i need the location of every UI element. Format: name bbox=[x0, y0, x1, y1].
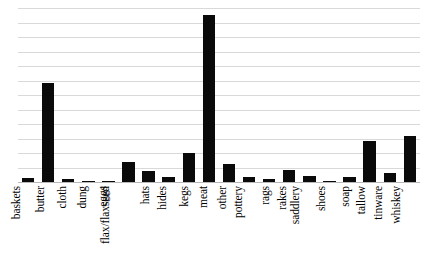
bar-slot bbox=[58, 8, 78, 182]
x-tick-label-slot: kegs bbox=[179, 184, 199, 264]
x-tick-label-slot: shoes bbox=[319, 184, 339, 264]
bar-slot bbox=[380, 8, 400, 182]
x-tick-label-slot: dung bbox=[78, 184, 98, 264]
x-tick-label-slot: hides bbox=[159, 184, 179, 264]
x-tick-label-cloth: cloth bbox=[57, 186, 69, 209]
bar-slot bbox=[239, 8, 259, 182]
x-tick-label-flax-flaxseed: flax/flaxseed bbox=[99, 186, 111, 244]
bar-flax-flaxseed[interactable] bbox=[122, 162, 134, 182]
bar-slot bbox=[159, 8, 179, 182]
x-tick-label-rags: rags bbox=[260, 186, 272, 205]
bar-rakes[interactable] bbox=[283, 170, 295, 182]
bar-slot bbox=[118, 8, 138, 182]
x-tick-label-slot: pottery bbox=[239, 184, 259, 264]
x-tick-label-other: other bbox=[217, 186, 229, 209]
bar-slot bbox=[18, 8, 38, 182]
bar-hats[interactable] bbox=[142, 171, 154, 182]
bar-slot bbox=[179, 8, 199, 182]
bar-whiskey[interactable] bbox=[404, 136, 416, 182]
bar-slot bbox=[299, 8, 319, 182]
bar-slot bbox=[139, 8, 159, 182]
bar-slot bbox=[319, 8, 339, 182]
x-tick-label-shoes: shoes bbox=[317, 186, 329, 211]
x-tick-label-hides: hides bbox=[157, 186, 169, 210]
x-axis-tick-labels: basketsbutterclothdungeggsflax/flaxseedh… bbox=[18, 184, 420, 264]
bar-butter[interactable] bbox=[42, 83, 54, 182]
x-tick-label-slot: flax/flaxseed bbox=[118, 184, 138, 264]
bar-slot bbox=[38, 8, 58, 182]
x-tick-label-butter: butter bbox=[35, 186, 47, 212]
x-axis-baseline bbox=[18, 182, 420, 183]
bar-slot bbox=[340, 8, 360, 182]
x-tick-label-meat: meat bbox=[198, 186, 210, 208]
x-tick-label-baskets: baskets bbox=[11, 186, 23, 219]
bar-other[interactable] bbox=[223, 164, 235, 182]
x-tick-label-slot: whiskey bbox=[400, 184, 420, 264]
x-tick-label-soap: soap bbox=[339, 186, 351, 207]
x-tick-label-rakes: rakes bbox=[277, 186, 289, 210]
plot-area bbox=[18, 8, 420, 182]
bar-kegs[interactable] bbox=[183, 153, 195, 182]
bar-slot bbox=[78, 8, 98, 182]
bar-slot bbox=[98, 8, 118, 182]
bar-meat[interactable] bbox=[203, 15, 215, 182]
bar-slot bbox=[219, 8, 239, 182]
bar-tallow[interactable] bbox=[363, 141, 375, 182]
bar-slot bbox=[360, 8, 380, 182]
x-tick-label-pottery: pottery bbox=[233, 186, 245, 218]
bar-tinware[interactable] bbox=[384, 173, 396, 182]
bar-slot bbox=[279, 8, 299, 182]
x-tick-label-tallow: tallow bbox=[356, 186, 368, 214]
x-tick-label-saddlery: saddlery bbox=[290, 186, 302, 224]
x-tick-label-whiskey: whiskey bbox=[391, 186, 403, 224]
bar-series bbox=[18, 8, 420, 182]
bar-chart: basketsbutterclothdungeggsflax/flaxseedh… bbox=[0, 0, 448, 266]
x-tick-label-kegs: kegs bbox=[178, 186, 190, 207]
bar-slot bbox=[400, 8, 420, 182]
x-tick-label-hats: hats bbox=[140, 186, 152, 204]
x-tick-label-dung: dung bbox=[77, 186, 89, 209]
bar-slot bbox=[259, 8, 279, 182]
x-tick-label-tinware: tinware bbox=[373, 186, 385, 220]
bar-slot bbox=[199, 8, 219, 182]
